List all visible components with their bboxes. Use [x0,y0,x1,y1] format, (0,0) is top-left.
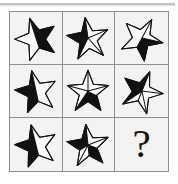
matrix-cell-3[interactable] [115,12,168,65]
matrix-grid: ? [9,11,169,172]
star-icon-left-half-black-2 [13,122,59,168]
question-mark-glyph: ? [133,123,151,164]
matrix-cell-2[interactable] [63,12,116,65]
matrix-cell-5[interactable] [63,65,116,118]
matrix-cell-1[interactable] [10,12,63,65]
matrix-cell-9-answer[interactable]: ? [115,118,168,171]
puzzle-image: ? [0,0,178,184]
star-icon-bottom-right-black [65,68,111,114]
star-icon-upper-left-black-tilted [119,68,165,114]
matrix-cell-8[interactable] [63,118,116,171]
scan-edge-artifact [175,0,178,184]
matrix-cell-7[interactable] [10,118,63,171]
star-icon-upper-left-black [65,15,111,61]
matrix-cell-6[interactable] [115,65,168,118]
star-icon-right-half-black [13,15,59,61]
star-icon-lower-right-black [119,15,165,61]
star-icon-top-wedge-black [65,122,111,168]
star-icon-left-half-black [13,68,59,114]
scan-artifact-line-secondary [0,5,178,6]
matrix-cell-4[interactable] [10,65,63,118]
